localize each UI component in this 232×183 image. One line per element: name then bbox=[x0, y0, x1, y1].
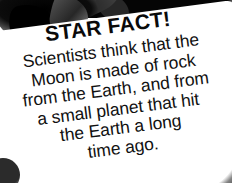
fact-body: Scientists think that the Moon is made o… bbox=[0, 27, 232, 172]
star-fact-card: STAR FACT! Scientists think that the Moo… bbox=[0, 0, 232, 183]
card-text-block: STAR FACT! Scientists think that the Moo… bbox=[0, 0, 232, 183]
